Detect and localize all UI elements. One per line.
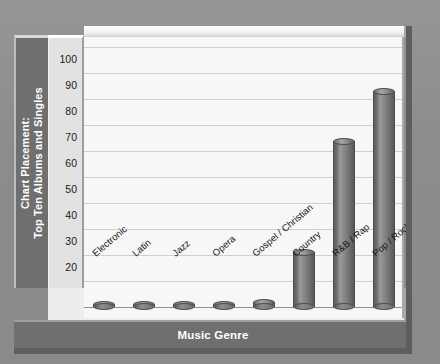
frame-shadow-right bbox=[406, 26, 412, 348]
bar-bottom-cap bbox=[373, 303, 395, 310]
frame-shadow-bottom bbox=[14, 348, 412, 354]
bar-bottom-cap bbox=[293, 303, 315, 310]
y-axis-tick-label: 50 bbox=[49, 184, 77, 194]
y-axis-tick-label: 100 bbox=[49, 54, 77, 64]
plot-area bbox=[84, 37, 404, 318]
bar-bottom-cap bbox=[213, 303, 235, 310]
bar-bottom-cap bbox=[93, 303, 115, 310]
bar bbox=[213, 304, 235, 307]
y-axis-tick-label: 80 bbox=[49, 106, 77, 116]
bar-bottom-cap bbox=[253, 303, 275, 310]
bar-bottom-cap bbox=[133, 303, 155, 310]
y-axis-tick-label: 60 bbox=[49, 158, 77, 168]
y-axis-title-line-2: Top Ten Albums and Singles bbox=[32, 87, 45, 239]
y-axis-title-line-1: Chart Placement: bbox=[19, 87, 32, 239]
bar-bottom-cap bbox=[333, 303, 355, 310]
y-axis-tick-labels: 0102030405060708090100 bbox=[48, 35, 84, 288]
bar bbox=[93, 304, 115, 307]
y-axis-tick-label: 30 bbox=[49, 236, 77, 246]
bar-series bbox=[84, 37, 402, 318]
plot-area-wrapper bbox=[84, 26, 406, 318]
x-axis-title-text: Music Genre bbox=[177, 329, 248, 341]
bar bbox=[373, 91, 395, 307]
y-axis-title-text: Chart Placement: Top Ten Albums and Sing… bbox=[19, 87, 45, 239]
bar-top-cap bbox=[333, 138, 355, 145]
y-axis-tick-label: 70 bbox=[49, 132, 77, 142]
y-axis-tick-label: 20 bbox=[49, 262, 77, 272]
bar-top-cap bbox=[373, 88, 395, 95]
bar bbox=[333, 141, 355, 307]
y-axis-tick-label: 90 bbox=[49, 80, 77, 90]
y-axis-tick-label: 40 bbox=[49, 210, 77, 220]
bar-chart: Chart Placement: Top Ten Albums and Sing… bbox=[0, 0, 440, 364]
bar-bottom-cap bbox=[173, 303, 195, 310]
bar bbox=[253, 302, 275, 307]
bar bbox=[293, 252, 315, 307]
bar bbox=[173, 304, 195, 307]
plot-top-edge bbox=[84, 26, 406, 37]
y-axis-title: Chart Placement: Top Ten Albums and Sing… bbox=[14, 35, 48, 288]
bar bbox=[133, 304, 155, 307]
x-axis-title: Music Genre bbox=[14, 320, 412, 348]
